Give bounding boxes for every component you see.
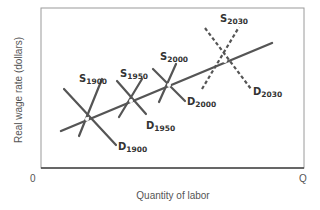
x-axis-title: Quantity of labor [136, 190, 210, 201]
label-s1900: S1900 [79, 73, 107, 86]
equilibrium-1950 [129, 99, 133, 103]
label-d1950: D1950 [146, 120, 175, 133]
equilibrium-1900 [85, 117, 89, 121]
x-origin-label: 0 [30, 173, 36, 184]
label-d1900: D1900 [118, 141, 147, 154]
label-s2000: S2000 [160, 51, 188, 64]
equilibrium-2000 [167, 83, 171, 87]
x-end-label: Q [299, 173, 307, 184]
label-s1950: S1950 [120, 68, 148, 81]
y-axis-title: Real wage rate (dollars) [13, 37, 24, 143]
curve-d2030 [205, 28, 251, 89]
label-d2030: D2030 [253, 86, 282, 99]
labor-market-chart: S1900 D1900 S1950 D1950 S2000 D2000 S203… [0, 0, 320, 210]
curve-d1900 [64, 89, 116, 145]
equilibrium-2030 [223, 59, 227, 63]
label-s2030: S2030 [220, 13, 248, 26]
label-d2000: D2000 [187, 96, 216, 109]
